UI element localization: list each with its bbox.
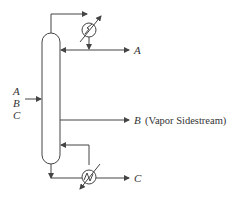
side-product-label: B	[134, 114, 141, 126]
feed-label-a: A	[12, 85, 20, 97]
reboiler-icon	[80, 164, 100, 189]
distillation-diagram: A A B C B (Vapor Sidestream) C	[0, 0, 241, 205]
reboiler-return-line	[61, 145, 89, 165]
bottom-product-label: C	[134, 172, 142, 184]
feed-label-c: C	[13, 109, 21, 121]
condenser-icon	[80, 16, 101, 42]
feed-label-b: B	[13, 97, 20, 109]
top-product-label: A	[133, 44, 141, 56]
distillation-column	[42, 33, 60, 164]
side-product-note: (Vapor Sidestream)	[145, 115, 227, 127]
